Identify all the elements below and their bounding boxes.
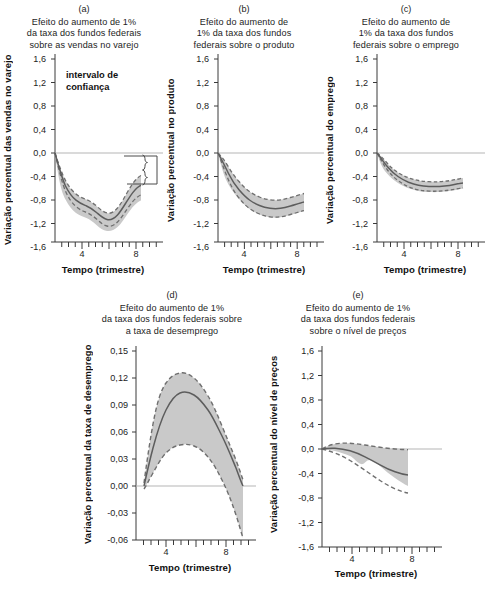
y-tick: 1,6 [355,54,368,64]
y-tick: 1,2 [355,78,368,88]
y-tick: -1,2 [352,219,368,229]
y-tick: 0,0 [301,444,314,454]
panel-c-y-ticks: 1,6 1,2 0,8 0,4 0,0 -0,4 -0,8 -1,2 -1,6 [338,52,368,248]
y-tick: -1,2 [193,219,209,229]
panel-b-title: Efeito do aumento de 1% da taxa dos fund… [163,17,325,52]
y-tick: 1,2 [196,78,209,88]
y-tick: 0,8 [196,101,209,111]
confidence-interval-annotation: intervalo de confiança [66,70,118,93]
panel-d-letter: (d) [82,290,262,302]
y-tick: 0,8 [33,101,46,111]
panel-e-svg [316,338,444,560]
panel-d-x-axis-label: Tempo (trimestre) [122,562,258,573]
y-tick: -0,06 [107,535,128,545]
x-tick-label: 4 [241,249,246,259]
y-tick: -0,4 [352,172,368,182]
panel-c-title-line2: 1% da taxa dos fundos [322,28,490,40]
panel-d-title-line3: a taxa de desemprego [82,326,262,338]
panel-c-plot: Variação percentual do emprego 1,6 1,2 0… [322,52,490,286]
y-tick: 0,15 [110,346,128,356]
y-tick: -0,4 [298,469,314,479]
panel-a: (a) Efeito do aumento de 1% da taxa dos … [0,4,168,286]
panel-e-letter: (e) [268,290,448,302]
panel-b-title-line2: 1% da taxa dos fundos [163,28,325,40]
panel-c-title-line3: federais sobre o emprego [322,40,490,52]
y-tick: 1,6 [301,346,314,356]
y-tick: -0,8 [352,195,368,205]
panel-c-svg [371,52,487,258]
panel-e-title-line1: Efeito do aumento de 1% [268,303,448,315]
y-tick: 0,03 [110,454,128,464]
y-tick: 0,06 [110,427,128,437]
y-tick: 0,4 [196,125,209,135]
x-tick-label: 4 [163,547,168,557]
panel-c: (c) Efeito do aumento de 1% da taxa dos … [322,4,490,286]
panel-d-y-ticks: 0,15 0,12 0,09 0,06 0,03 0,00 -0,03 -0,0… [96,338,128,546]
figure-panel-grid: (a) Efeito do aumento de 1% da taxa dos … [0,0,490,592]
y-tick: -1,6 [193,242,209,252]
panel-e-x-axis-label: Tempo (trimestre) [308,568,444,579]
y-tick: 0,8 [355,101,368,111]
panel-a-title: Efeito do aumento de 1% da taxa dos fund… [0,17,168,52]
panel-e-title: Efeito do aumento de 1% da taxa dos fund… [268,303,448,338]
x-tick-label: 8 [133,249,138,259]
panel-e: (e) Efeito do aumento de 1% da taxa dos … [268,290,448,590]
panel-b-title-line3: federais sobre o produto [163,40,325,52]
panel-a-y-ticks: 1,6 1,2 0,8 0,4 0,0 -0,4 -0,8 -1,2 -1,6 [16,52,46,248]
panel-a-x-axis-label: Tempo (trimestre) [40,264,166,275]
y-tick: 0,09 [110,400,128,410]
panel-a-y-axis-label: Variação percentual das vendas no varejo [2,52,15,248]
panel-e-y-ticks: 1,6 1,2 0,8 0,4 0,0 -0,4 -0,8 -1,2 -1,6 [282,338,314,546]
panel-c-y-axis-label: Variação percentual do emprego [324,52,337,248]
x-tick-label: 4 [401,249,406,259]
panel-a-title-line2: da taxa dos fundos federais [0,28,168,40]
y-tick: -1,2 [298,518,314,528]
y-tick: -0,4 [193,172,209,182]
panel-d-svg [130,338,258,558]
panel-d-title-line2: da taxa dos fundos federais sobre [82,314,262,326]
y-tick: -1,6 [298,542,314,552]
y-tick: -0,8 [30,195,46,205]
panel-b-title-line1: Efeito do aumento de [163,17,325,29]
panel-e-y-axis-label: Variação percentual do nível de preços [268,340,281,548]
panel-a-plot: Variação percentual das vendas no varejo… [0,52,168,286]
panel-d-plot: Variação percentual da taxa de desempreg… [82,338,262,590]
panel-b-x-axis-label: Tempo (trimestre) [201,264,327,275]
y-tick: 0,4 [33,125,46,135]
y-tick: -0,03 [107,508,128,518]
panel-e-title-line3: sobre o nível de preços [268,326,448,338]
panel-d-title: Efeito do aumento de 1% da taxa dos fund… [82,303,262,338]
panel-d-y-axis-label: Variação percentual da taxa de desempreg… [82,340,95,548]
panel-b-y-axis-label: Variação percentual no produto [165,52,178,248]
panel-c-letter: (c) [322,4,490,16]
y-tick: -1,2 [30,219,46,229]
y-tick: -0,4 [30,172,46,182]
annotation-line2: confiança [66,82,118,94]
x-tick-label: 8 [409,554,414,564]
panel-b: (b) Efeito do aumento de 1% da taxa dos … [163,4,325,286]
x-tick-label: 8 [455,249,460,259]
y-tick: 1,2 [33,78,46,88]
y-tick: 0,0 [33,148,46,158]
panel-b-y-ticks: 1,6 1,2 0,8 0,4 0,0 -0,4 -0,8 -1,2 -1,6 [179,52,209,248]
panel-b-plot: Variação percentual no produto 1,6 1,2 0… [163,52,325,286]
x-tick-label: 8 [294,249,299,259]
y-tick: 0,0 [196,148,209,158]
panel-d: (d) Efeito do aumento de 1% da taxa dos … [82,290,262,590]
y-tick: 0,4 [301,420,314,430]
panel-b-letter: (b) [163,4,325,16]
panel-c-x-axis-label: Tempo (trimestre) [362,264,488,275]
panel-e-plot: Variação percentual do nível de preços 1… [268,338,448,590]
panel-a-title-line3: sobre as vendas no varejo [0,40,168,52]
panel-c-title: Efeito do aumento de 1% da taxa dos fund… [322,17,490,52]
y-tick: 0,0 [355,148,368,158]
panel-a-title-line1: Efeito do aumento de 1% [0,17,168,29]
y-tick: -0,8 [193,195,209,205]
y-tick: -1,6 [30,242,46,252]
panel-d-title-line1: Efeito do aumento de 1% [82,303,262,315]
panel-a-letter: (a) [0,4,168,16]
y-tick: 1,2 [301,371,314,381]
y-tick: 0,12 [110,373,128,383]
x-tick-label: 4 [349,554,354,564]
y-tick: 0,4 [355,125,368,135]
